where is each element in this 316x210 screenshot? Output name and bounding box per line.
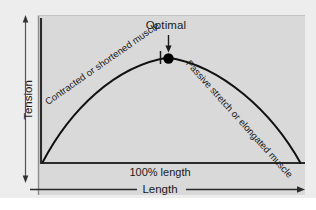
percent-length-text: 100% length [129,166,190,178]
x-axis-title: Length [0,183,316,195]
optimal-point-marker [163,53,173,63]
length-tension-curve-figure: Optimal 100% length Length Tension Contr… [0,0,316,210]
y-axis-title: Tension [22,60,34,140]
x-axis-title-text: Length [142,183,177,195]
bottom-white-margin [0,198,316,210]
percent-length-tick-label: 100% length [0,166,316,178]
